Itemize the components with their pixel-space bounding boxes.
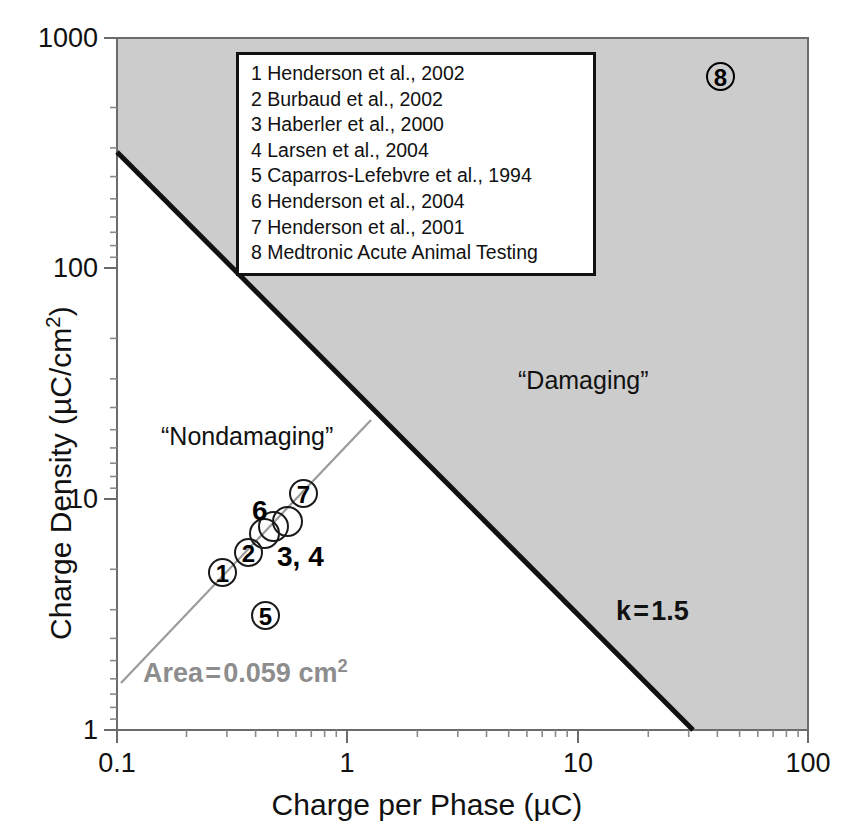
data-point-5-label: 5 xyxy=(251,603,280,631)
x-axis-minor-ticks xyxy=(187,730,799,737)
y-tick-100: 100 xyxy=(0,253,98,284)
y-axis-minor-ticks xyxy=(110,108,117,720)
figure-canvas: 1 2 5 7 8 6 3, 4 1 Henderson et al., 200… xyxy=(0,0,854,838)
cluster-label-3-4: 3, 4 xyxy=(277,541,324,573)
y-tick-1: 1 xyxy=(0,715,98,746)
k-value-label: k = 1.5 xyxy=(616,596,689,627)
area-annotation-exponent: 2 xyxy=(337,655,347,676)
legend-entry-1: 1 Henderson et al., 2002 xyxy=(251,61,583,87)
y-axis-title-tail: ) xyxy=(44,306,77,316)
legend-entry-4: 4 Larsen et al., 2004 xyxy=(251,138,583,164)
damaging-region-label: “Damaging” xyxy=(518,366,649,395)
data-point-4[interactable] xyxy=(272,506,303,537)
legend-entry-8: 8 Medtronic Acute Animal Testing xyxy=(251,240,583,266)
legend-box: 1 Henderson et al., 2002 2 Burbaud et al… xyxy=(236,52,596,276)
y-axis-title-exponent: 2 xyxy=(42,316,64,327)
data-point-1-label: 1 xyxy=(208,560,237,588)
x-axis-major-ticks xyxy=(117,730,808,743)
legend-entry-3: 3 Haberler et al., 2000 xyxy=(251,112,583,138)
x-tick-10: 10 xyxy=(528,748,628,779)
x-tick-100: 100 xyxy=(758,748,854,779)
x-tick-0.1: 0.1 xyxy=(67,748,167,779)
area-annotation-text: Area = 0.059 cm xyxy=(143,658,337,688)
x-axis-title: Charge per Phase (µC) xyxy=(0,788,854,822)
cluster-label-6: 6 xyxy=(252,495,268,527)
y-axis-title-main: Charge Density (µC/cm xyxy=(44,328,77,640)
area-annotation: Area = 0.059 cm2 xyxy=(143,655,348,689)
y-tick-1000: 1000 xyxy=(0,23,98,54)
data-point-7-label: 7 xyxy=(289,481,318,509)
nondamaging-region-label: “Nondamaging” xyxy=(161,422,333,451)
legend-entry-2: 2 Burbaud et al., 2002 xyxy=(251,87,583,113)
legend-entry-5: 5 Caparros-Lefebvre et al., 1994 xyxy=(251,163,583,189)
y-axis-title: Charge Density (µC/cm2) xyxy=(42,306,78,640)
legend-entry-7: 7 Henderson et al., 2001 xyxy=(251,215,583,241)
y-axis-major-ticks xyxy=(104,38,117,730)
x-tick-1: 1 xyxy=(297,748,397,779)
legend-entry-6: 6 Henderson et al., 2004 xyxy=(251,189,583,215)
data-point-8-label: 8 xyxy=(706,64,735,92)
